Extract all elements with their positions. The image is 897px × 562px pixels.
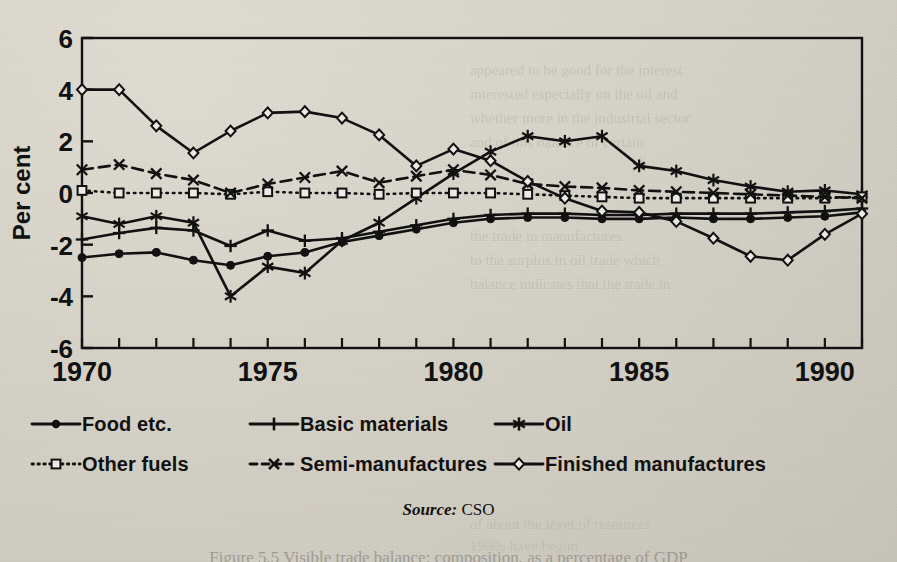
marker: [448, 144, 458, 155]
legend-item-finished-manufactures[interactable]: Finished manufactures: [493, 444, 766, 484]
source-note: Source: CSO: [0, 500, 897, 520]
source-label: Source:: [402, 500, 457, 519]
legend-item-food-etc[interactable]: Food etc.: [30, 404, 172, 444]
legend-item-oil[interactable]: Oil: [493, 404, 572, 444]
legend-label: Other fuels: [82, 453, 189, 476]
x-tick-label: 1970: [52, 357, 112, 387]
legend-marker-icon: [248, 453, 300, 475]
legend-marker-icon: [493, 453, 545, 475]
legend-glyph: [248, 413, 300, 435]
legend-item-other-fuels[interactable]: Other fuels: [30, 444, 189, 484]
figure-caption: Figure 5.5 Visible trade balance: compos…: [0, 548, 897, 562]
marker: [152, 189, 161, 198]
marker: [523, 190, 532, 199]
legend-label: Finished manufactures: [545, 453, 766, 476]
legend-label: Oil: [545, 413, 572, 436]
legend-item-basic-materials[interactable]: Basic materials: [248, 404, 448, 444]
series-finished-manufactures: [77, 84, 867, 265]
marker: [78, 186, 87, 195]
x-tick-label: 1980: [423, 357, 483, 387]
marker: [486, 189, 495, 198]
marker: [338, 189, 347, 198]
marker: [189, 256, 197, 264]
line-chart: -6-4-2024619701975198019851990Per cent: [0, 0, 897, 400]
legend-marker-icon: [30, 453, 82, 475]
marker: [77, 84, 87, 95]
legend-marker-icon: [248, 413, 300, 435]
legend-marker-icon: [30, 413, 82, 435]
marker: [227, 261, 235, 269]
legend-glyph: [248, 453, 300, 475]
legend-item-semi-manufactures[interactable]: Semi-manufactures: [248, 444, 487, 484]
marker: [486, 155, 496, 166]
legend-label: Basic materials: [300, 413, 448, 436]
x-tick-label: 1985: [609, 357, 669, 387]
legend-row: Other fuelsSemi-manufacturesFinished man…: [30, 444, 897, 484]
legend-glyph: [30, 413, 82, 435]
marker: [375, 190, 384, 199]
marker: [152, 248, 160, 256]
marker: [263, 108, 273, 119]
marker: [337, 113, 347, 124]
marker: [226, 126, 236, 137]
legend-glyph: [30, 453, 82, 475]
marker: [115, 250, 123, 258]
marker: [412, 189, 421, 198]
marker: [78, 254, 86, 262]
source-value: CSO: [461, 500, 494, 519]
marker: [449, 189, 458, 198]
y-tick-label: -4: [50, 282, 74, 312]
marker: [264, 252, 272, 260]
marker: [598, 192, 607, 201]
legend-label: Semi-manufactures: [300, 453, 487, 476]
y-tick-label: 0: [59, 179, 73, 209]
x-tick-label: 1975: [238, 357, 298, 387]
marker: [746, 251, 756, 262]
y-tick-label: -2: [50, 231, 73, 261]
marker: [300, 189, 309, 198]
legend-glyph: [493, 453, 545, 475]
legend-row: Food etc.Basic materialsOil: [30, 404, 897, 444]
marker: [115, 189, 124, 198]
y-tick-label: 4: [59, 76, 74, 106]
legend-label: Food etc.: [82, 413, 172, 436]
y-axis-title: Per cent: [8, 146, 35, 241]
y-tick-label: 6: [59, 24, 73, 54]
legend-marker-icon: [493, 413, 545, 435]
legend-glyph: [493, 413, 545, 435]
marker: [708, 233, 718, 244]
marker: [301, 248, 309, 256]
chart-legend: Food etc.Basic materialsOilOther fuelsSe…: [0, 404, 897, 496]
y-tick-label: 2: [59, 127, 73, 157]
marker: [189, 189, 198, 198]
marker: [300, 106, 310, 117]
x-tick-label: 1990: [795, 357, 855, 387]
